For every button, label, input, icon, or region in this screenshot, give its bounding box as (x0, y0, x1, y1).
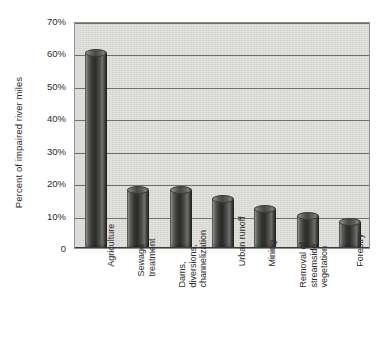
y-axis-title: Percent of impaired river miles (10, 22, 28, 262)
x-axis-category-label-line: Removal of (298, 242, 309, 288)
x-axis-category-label: Dams,diversions,channelization (159, 252, 201, 348)
y-axis-tick-label: 30% (47, 147, 66, 157)
y-axis-tick-labels: 70%60%50%40%30%20%10%0 (30, 22, 70, 249)
plot-area (74, 22, 370, 249)
bar-body (212, 199, 234, 248)
y-axis-tick-label: 70% (47, 17, 66, 27)
x-axis-category-label-text: Agriculture (106, 223, 117, 266)
x-axis-category-label-line: Dams, (177, 230, 188, 288)
x-axis-category-labels: AgricultureSewagetreatmentDams,diversion… (74, 252, 370, 350)
x-axis-category-label: Urban runoff (201, 252, 243, 348)
y-axis-title-text: Percent of impaired river miles (14, 76, 25, 207)
bar[interactable] (85, 49, 107, 248)
y-axis-tick-label: 40% (47, 114, 66, 124)
x-axis-category-label-text: Sewagetreatment (135, 239, 156, 277)
gridline (75, 120, 369, 121)
gridline (75, 23, 369, 24)
y-axis-tick-label: 20% (47, 179, 66, 189)
x-axis-category-label: Mining (243, 252, 285, 348)
y-axis-tick-label: 60% (47, 49, 66, 59)
x-axis-category-label-text: Forestry (355, 233, 366, 266)
x-axis-category-label-line: streamside (308, 242, 319, 288)
gridline (75, 55, 369, 56)
x-axis-category-label: Agriculture (74, 252, 116, 348)
bar-chart: Percent of impaired river miles 70%60%50… (0, 0, 392, 352)
gridline (75, 88, 369, 89)
x-axis-category-label-text: Removal ofstreamsidevegetation (298, 242, 330, 288)
x-axis-category-label-line: Forestry (355, 233, 366, 266)
bar-body (85, 53, 107, 248)
x-axis-category-label: Forestry (328, 252, 370, 348)
bar-top-cap (339, 218, 361, 226)
x-axis-category-label: Sewagetreatment (116, 252, 158, 348)
y-axis-tick-label: 10% (47, 212, 66, 222)
bar-top-cap (127, 186, 149, 194)
x-axis-category-label-line: diversions, (187, 230, 198, 288)
gridline (75, 153, 369, 154)
gridline (75, 185, 369, 186)
x-axis-category-label-line: Sewage (135, 239, 146, 277)
x-axis-category-label-line: Agriculture (106, 223, 117, 266)
x-axis-category-label-line: treatment (146, 239, 157, 277)
y-axis-tick-label: 50% (47, 82, 66, 92)
bar-top-cap (297, 212, 319, 220)
x-axis-category-label: Removal ofstreamsidevegetation (285, 252, 327, 348)
bar[interactable] (212, 195, 234, 248)
bar-top-cap (170, 186, 192, 194)
x-axis-category-label-line: Mining (267, 240, 278, 267)
x-axis-category-label-text: Mining (267, 240, 278, 267)
y-axis-tick-label: 0 (61, 244, 66, 254)
